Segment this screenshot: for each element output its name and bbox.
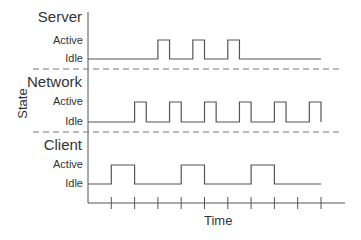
row-title-network: Network [27, 73, 82, 90]
network-active-label: Active [53, 95, 83, 107]
client-waveform [88, 165, 321, 184]
row-title-client: Client [44, 136, 82, 153]
client-active-label: Active [53, 158, 83, 170]
server-waveform [88, 40, 321, 59]
client-idle-label: Idle [65, 177, 83, 189]
y-axis-title: State [15, 84, 30, 124]
network-waveform [88, 102, 321, 122]
row-title-server: Server [38, 8, 82, 25]
server-active-label: Active [53, 34, 83, 46]
x-axis-title: Time [204, 213, 232, 228]
network-idle-label: Idle [65, 115, 83, 127]
server-idle-label: Idle [65, 52, 83, 64]
timing-diagram: Server Active Idle Network Active Idle C… [0, 0, 361, 240]
